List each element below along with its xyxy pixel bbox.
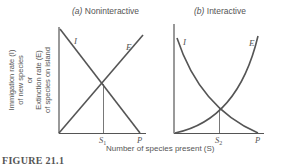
panel-a-e-label: E	[125, 42, 132, 52]
x-axis-label: Number of species present (S)	[106, 144, 215, 153]
panel-b-immigration-curve	[177, 38, 258, 133]
panel-b-s2-tick: S2	[215, 135, 222, 146]
panel-b-extinction-curve	[175, 36, 258, 133]
figure-caption: FIGURE 21.1	[2, 155, 64, 166]
panel-a-plot	[59, 27, 146, 134]
panel-b-i-label: I	[182, 37, 187, 47]
diagram-canvas: I E S1 P I E S2 P	[0, 0, 282, 168]
panel-a-i-label: I	[73, 36, 78, 46]
panel-b-e-label: E	[248, 38, 255, 48]
panel-b-p-tick: P	[254, 135, 260, 145]
